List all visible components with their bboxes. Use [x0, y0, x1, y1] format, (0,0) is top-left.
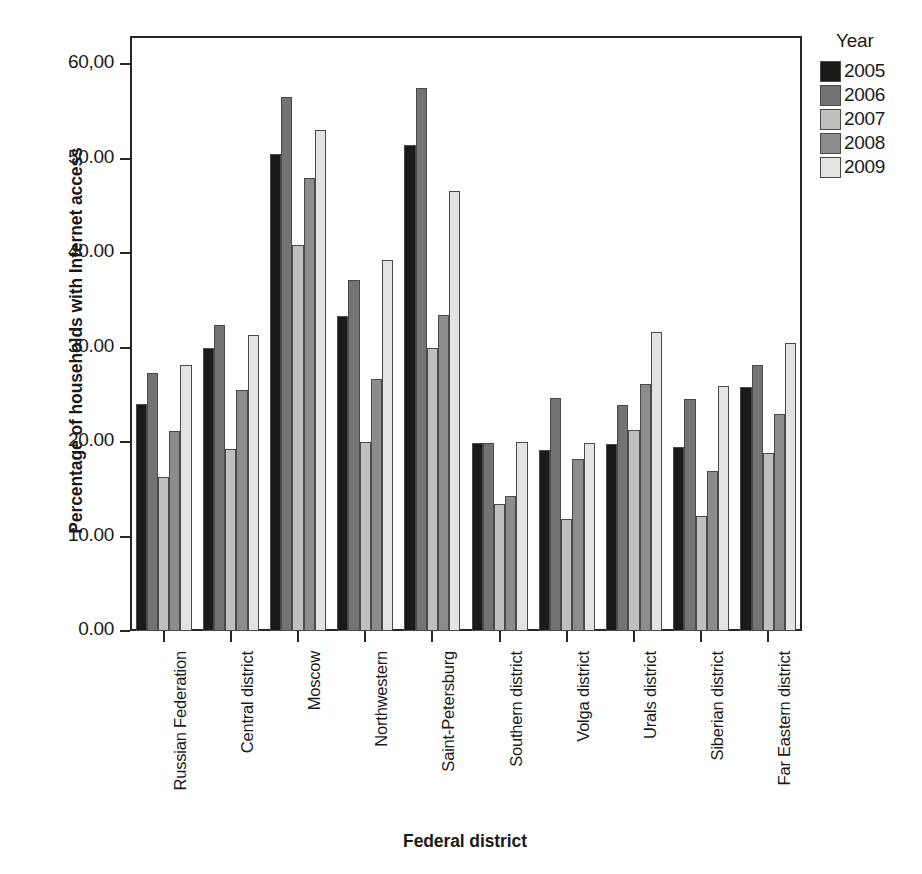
x-tick-label: Russian Federation — [171, 651, 190, 790]
x-tick-mark — [431, 631, 433, 642]
y-tick-label: 60,00 — [30, 51, 114, 73]
x-tick-mark — [297, 631, 299, 642]
x-tick-label: Northwestern — [372, 651, 391, 747]
x-tick-mark — [700, 631, 702, 642]
legend-item-label: 2005 — [844, 60, 885, 82]
bar — [449, 191, 460, 631]
bar — [785, 343, 796, 631]
legend-item-label: 2006 — [844, 84, 885, 106]
x-tick-label: Far Eastern district — [775, 651, 794, 785]
bar — [673, 447, 684, 631]
y-tick-label: 50.00 — [30, 146, 114, 168]
bar — [158, 477, 169, 631]
bar — [707, 471, 718, 631]
bar — [438, 315, 449, 631]
bar — [404, 145, 415, 631]
y-tick-label: 30.00 — [30, 335, 114, 357]
x-axis-title: Federal district — [130, 831, 800, 852]
x-tick-mark — [230, 631, 232, 642]
bar — [651, 332, 662, 631]
x-tick-mark — [566, 631, 568, 642]
bar — [572, 459, 583, 631]
bar — [472, 443, 483, 631]
legend-item[interactable]: 2005 — [820, 60, 920, 82]
legend-item[interactable]: 2006 — [820, 84, 920, 106]
bar — [774, 414, 785, 631]
legend-item-label: 2007 — [844, 108, 885, 130]
x-tick-mark — [633, 631, 635, 642]
bar — [763, 453, 774, 632]
bar — [483, 443, 494, 631]
x-tick-label: Urals district — [641, 651, 660, 739]
legend-entries: 20052006200720082009 — [820, 60, 920, 178]
y-tick-mark — [120, 63, 130, 65]
bar — [606, 444, 617, 631]
bar — [180, 365, 191, 631]
bar — [315, 130, 326, 631]
bar — [718, 386, 729, 631]
legend-item-label: 2008 — [844, 132, 885, 154]
x-tick-label: Siberian district — [708, 651, 727, 760]
bar — [169, 431, 180, 631]
bar — [147, 373, 158, 631]
y-tick-mark — [120, 536, 130, 538]
y-tick-label: 0.00 — [30, 618, 114, 640]
bar — [752, 365, 763, 631]
x-tick-label: Saint-Petersburg — [439, 651, 458, 772]
legend-swatch-icon — [820, 157, 841, 178]
bar-chart: Percentage of households with Internet a… — [0, 0, 922, 874]
bar — [348, 280, 359, 631]
bar — [248, 335, 259, 631]
legend: Year 20052006200720082009 — [820, 30, 920, 180]
y-tick-mark — [120, 252, 130, 254]
bar — [382, 260, 393, 631]
bar — [203, 348, 214, 631]
x-tick-mark — [163, 631, 165, 642]
x-tick-mark — [767, 631, 769, 642]
y-tick-label: 40.00 — [30, 240, 114, 262]
x-tick-label: Moscow — [305, 651, 324, 710]
bar — [136, 404, 147, 631]
bar — [416, 88, 427, 631]
bar — [505, 496, 516, 631]
bar — [214, 325, 225, 631]
bar — [696, 516, 707, 631]
y-tick-mark — [120, 441, 130, 443]
y-tick-mark — [120, 347, 130, 349]
legend-swatch-icon — [820, 109, 841, 130]
legend-item[interactable]: 2008 — [820, 132, 920, 154]
bar — [740, 387, 751, 631]
y-tick-mark — [120, 158, 130, 160]
bar — [561, 519, 572, 631]
bar — [304, 178, 315, 631]
bars-layer — [130, 36, 802, 631]
bar — [516, 442, 527, 631]
bar — [337, 316, 348, 631]
x-tick-label: Central district — [238, 651, 257, 753]
legend-swatch-icon — [820, 85, 841, 106]
y-tick-label: 10.00 — [30, 524, 114, 546]
legend-item[interactable]: 2007 — [820, 108, 920, 130]
legend-swatch-icon — [820, 133, 841, 154]
legend-swatch-icon — [820, 61, 841, 82]
y-tick-label: 20.00 — [30, 429, 114, 451]
x-tick-mark — [364, 631, 366, 642]
bar — [628, 430, 639, 631]
legend-item[interactable]: 2009 — [820, 156, 920, 178]
x-tick-label: Southern district — [507, 651, 526, 767]
legend-item-label: 2009 — [844, 156, 885, 178]
bar — [225, 449, 236, 631]
bar — [360, 442, 371, 631]
x-tick-mark — [499, 631, 501, 642]
bar — [640, 384, 651, 631]
bar — [236, 390, 247, 631]
bar — [371, 379, 382, 631]
bar — [270, 154, 281, 631]
bar — [427, 348, 438, 631]
bar — [617, 405, 628, 631]
bar — [539, 450, 550, 631]
bar — [584, 443, 595, 631]
bar — [550, 398, 561, 631]
y-tick-mark — [120, 630, 130, 632]
bar — [684, 399, 695, 631]
